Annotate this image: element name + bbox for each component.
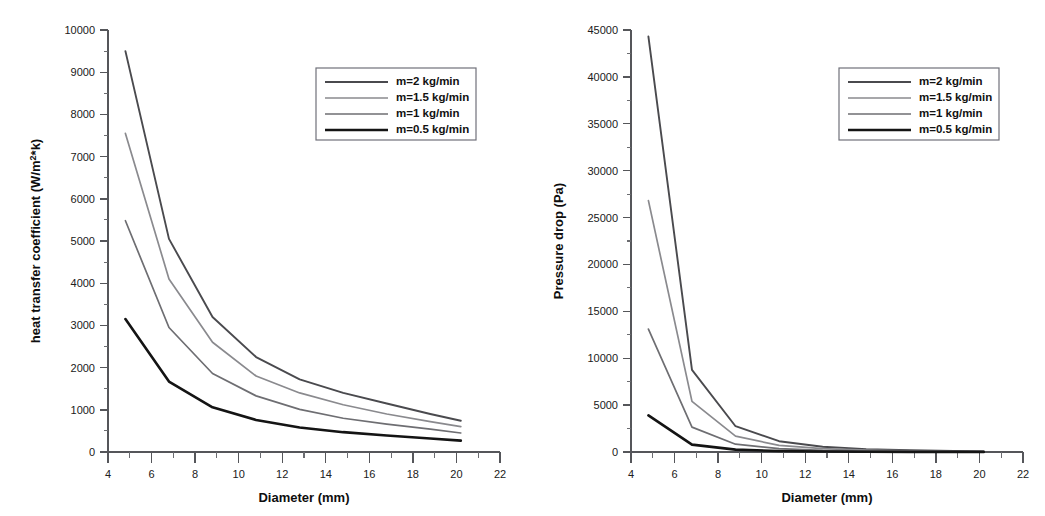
legend-label-0: m=2 kg/min [396, 75, 460, 87]
y-tick-label: 6000 [71, 193, 95, 205]
x-axis-title: Diameter (mm) [258, 490, 349, 505]
y-tick-label: 4000 [71, 277, 95, 289]
chart-panel-heat-transfer-coefficient: 0100020003000400050006000700080009000100… [0, 0, 522, 516]
x-tick-label: 14 [843, 468, 855, 480]
y-tick-label: 25000 [587, 212, 618, 224]
y-tick-label: 0 [612, 446, 618, 458]
x-tick-label: 8 [715, 468, 721, 480]
pressure-drop-plot: 0500010000150002000025000300003500040000… [523, 0, 1045, 516]
series-line-2 [648, 329, 983, 452]
x-tick-label: 6 [671, 468, 677, 480]
y-tick-label: 15000 [587, 305, 618, 317]
y-axis-title: heat transfer coefficient (W/m2*k) [28, 139, 43, 343]
y-tick-label: 10000 [64, 24, 95, 36]
series-line-1 [125, 133, 460, 426]
y-axis-title-base: heat transfer coefficient (W/m [28, 160, 43, 343]
legend-label-3: m=0.5 kg/min [396, 123, 469, 135]
legend-label-1: m=1.5 kg/min [396, 91, 469, 103]
y-axis-title: Pressure drop (Pa) [551, 183, 566, 299]
x-tick-label: 4 [105, 468, 111, 480]
y-tick-label: 10000 [587, 352, 618, 364]
x-tick-label: 10 [756, 468, 768, 480]
x-tick-label: 18 [930, 468, 942, 480]
legend-label-2: m=1 kg/min [919, 107, 983, 119]
x-tick-label: 20 [973, 468, 985, 480]
x-tick-label: 12 [276, 468, 288, 480]
y-tick-label: 3000 [71, 319, 95, 331]
x-axis-title: Diameter (mm) [781, 490, 872, 505]
y-tick-label: 7000 [71, 151, 95, 163]
y-tick-label: 40000 [587, 71, 618, 83]
x-tick-label: 10 [233, 468, 245, 480]
y-tick-label: 35000 [587, 118, 618, 130]
y-axis-title-tail: *k) [28, 139, 43, 156]
x-tick-label: 12 [799, 468, 811, 480]
y-tick-label: 30000 [587, 165, 618, 177]
x-tick-label: 6 [148, 468, 154, 480]
legend-label-0: m=2 kg/min [919, 75, 983, 87]
y-tick-label: 5000 [71, 235, 95, 247]
legend-label-3: m=0.5 kg/min [919, 123, 992, 135]
y-tick-label: 9000 [71, 66, 95, 78]
x-tick-label: 14 [320, 468, 332, 480]
x-tick-label: 4 [628, 468, 634, 480]
x-tick-label: 16 [363, 468, 375, 480]
legend-label-1: m=1.5 kg/min [919, 91, 992, 103]
y-tick-label: 20000 [587, 258, 618, 270]
x-tick-label: 8 [192, 468, 198, 480]
y-tick-label: 8000 [71, 108, 95, 120]
figure-root: 0100020003000400050006000700080009000100… [0, 0, 1045, 516]
x-tick-label: 20 [450, 468, 462, 480]
y-tick-label: 1000 [71, 404, 95, 416]
y-tick-label: 45000 [587, 24, 618, 36]
legend-label-2: m=1 kg/min [396, 107, 460, 119]
chart-panel-pressure-drop: 0500010000150002000025000300003500040000… [523, 0, 1045, 516]
heat-transfer-coefficient-plot: 0100020003000400050006000700080009000100… [0, 0, 522, 516]
x-tick-label: 22 [494, 468, 506, 480]
y-tick-label: 2000 [71, 362, 95, 374]
series-line-3 [125, 319, 460, 441]
series-line-1 [648, 201, 983, 452]
x-tick-label: 16 [886, 468, 898, 480]
x-tick-label: 18 [407, 468, 419, 480]
y-tick-label: 0 [89, 446, 95, 458]
y-tick-label: 5000 [594, 399, 618, 411]
x-tick-label: 22 [1017, 468, 1029, 480]
